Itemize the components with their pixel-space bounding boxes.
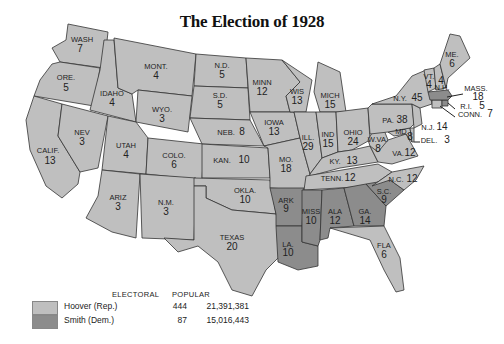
state-electoral-votes: 4 <box>153 70 159 81</box>
state-me <box>440 34 470 88</box>
state-electoral-votes: 4 <box>438 75 444 86</box>
state-electoral-votes: 9 <box>381 194 387 205</box>
state-electoral-votes: 5 <box>219 69 225 80</box>
state-abbr-label: VA. <box>392 149 404 158</box>
state-electoral-votes: 7 <box>487 108 493 119</box>
state-electoral-votes: 4 <box>123 149 129 160</box>
state-electoral-votes: 4 <box>426 79 432 90</box>
state-electoral-votes: 13 <box>44 155 56 166</box>
state-electoral-votes: 3 <box>159 113 165 124</box>
legend-header-electoral: ELECTORAL <box>112 290 159 299</box>
state-abbr-label: CALIF. <box>37 146 60 155</box>
state-electoral-votes: 13 <box>346 155 358 166</box>
state-r-i <box>442 100 448 106</box>
state-electoral-votes: 10 <box>305 215 317 226</box>
state-electoral-votes: 8 <box>407 131 413 142</box>
state-electoral-votes: 5 <box>63 82 69 93</box>
state-abbr-label: TENN. <box>321 174 344 183</box>
state-electoral-votes: 45 <box>411 92 423 103</box>
state-abbr-label: PA. <box>382 116 394 125</box>
state-electoral-votes: 5 <box>217 99 223 110</box>
state-electoral-votes: 20 <box>226 241 238 252</box>
state-electoral-votes: 7 <box>77 43 83 54</box>
legend-row-hoover: Hoover (Rep.) 444 21,391,381 <box>32 301 252 314</box>
state-abbr-label: CONN. <box>458 110 482 119</box>
leader-line-ri <box>448 103 455 109</box>
state-electoral-votes: 3 <box>115 201 121 212</box>
state-electoral-votes: 24 <box>347 136 359 147</box>
legend-row-smith: Smith (Dem.) 87 15,016,443 <box>32 315 252 328</box>
state-abbr-label: N.Y. <box>393 94 407 103</box>
state-abbr-label: DEL. <box>421 136 438 145</box>
legend-popular-votes: 15,016,443 <box>169 315 249 325</box>
legend-swatch-smith <box>32 315 58 329</box>
state-electoral-votes: 3 <box>444 134 450 145</box>
state-abbr-label: KAN. <box>213 156 231 165</box>
state-electoral-votes: 8 <box>375 143 381 154</box>
state-electoral-votes: 29 <box>302 141 314 152</box>
state-electoral-votes: 4 <box>109 97 115 108</box>
state-abbr-label: NEB. <box>217 128 235 137</box>
legend-popular-votes: 21,391,381 <box>169 301 249 311</box>
legend-candidate-name: Hoover (Rep.) <box>64 301 117 311</box>
state-electoral-votes: 38 <box>396 114 408 125</box>
state-electoral-votes: 10 <box>238 154 250 165</box>
state-electoral-votes: 12 <box>344 172 356 183</box>
us-electoral-map: WASH7ORE.5CALIF.13IDAHO4NEV3MONT.4WYO.3U… <box>0 0 504 344</box>
state-electoral-votes: 12 <box>404 147 416 158</box>
state-abbr-label: KY. <box>329 157 340 166</box>
state-electoral-votes: 12 <box>329 215 341 226</box>
state-electoral-votes: 15 <box>322 138 334 149</box>
state-electoral-votes: 3 <box>79 136 85 147</box>
state-electoral-votes: 13 <box>291 95 303 106</box>
legend-candidate-name: Smith (Dem.) <box>64 315 114 325</box>
state-electoral-votes: 12 <box>256 86 268 97</box>
state-electoral-votes: 10 <box>239 194 251 205</box>
state-electoral-votes: 10 <box>282 247 294 258</box>
state-abbr-label: ORE. <box>57 73 75 82</box>
state-electoral-votes: 13 <box>268 126 280 137</box>
state-electoral-votes: 14 <box>359 215 371 226</box>
state-electoral-votes: 6 <box>171 159 177 170</box>
legend-swatch-hoover <box>32 301 58 315</box>
state-abbr-label: N.J. <box>421 123 434 132</box>
state-abbr-label: N.C. <box>389 175 404 184</box>
state-electoral-votes: 15 <box>324 99 336 110</box>
state-electoral-votes: 18 <box>280 163 292 174</box>
state-electoral-votes: 14 <box>436 121 448 132</box>
state-electoral-votes: 9 <box>283 203 289 214</box>
state-fla <box>330 226 404 292</box>
legend-header-popular: POPULAR <box>172 290 210 299</box>
state-electoral-votes: 18 <box>472 91 484 102</box>
state-electoral-votes: 8 <box>239 126 245 137</box>
state-electoral-votes: 6 <box>381 249 387 260</box>
state-electoral-votes: 6 <box>449 58 455 69</box>
state-electoral-votes: 12 <box>406 173 418 184</box>
state-kan <box>202 144 270 178</box>
state-abbr-label: R.I. <box>460 102 472 111</box>
state-electoral-votes: 3 <box>163 206 169 217</box>
state-ariz <box>86 170 140 238</box>
